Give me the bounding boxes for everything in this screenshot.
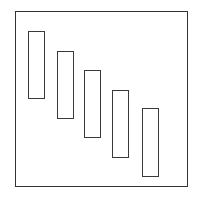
- rectangle-4: [112, 90, 129, 158]
- rectangle-1: [28, 31, 45, 99]
- rectangle-5: [142, 108, 159, 177]
- rectangle-2: [57, 51, 74, 119]
- rectangle-3: [84, 70, 101, 138]
